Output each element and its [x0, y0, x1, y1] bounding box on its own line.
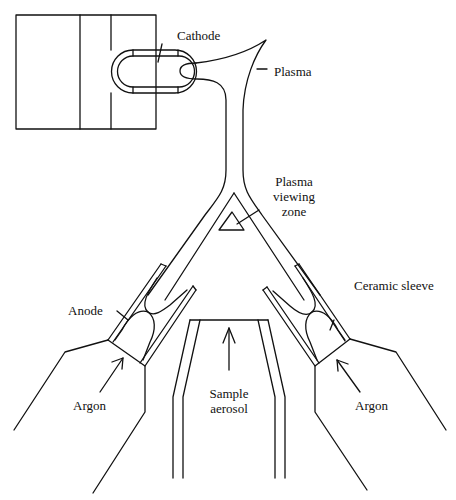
left-anode-assembly: [14, 264, 196, 493]
plasma-viewing-zone-label: Plasma viewing zone: [261, 174, 327, 219]
sample-label-line2: aerosol: [204, 401, 254, 416]
anode-label: Anode: [68, 303, 103, 318]
viewing-zone-label-line2: viewing: [261, 189, 327, 204]
cathode-block: [16, 15, 156, 129]
sample-label-line1: Sample: [204, 386, 254, 401]
ceramic-sleeve-label: Ceramic sleeve: [354, 278, 434, 293]
plasma-label: Plasma: [274, 64, 312, 79]
argon-left-label: Argon: [73, 398, 106, 413]
plasma-source-diagram: Cathode Plasma Plasma viewing zone Anode…: [0, 0, 456, 500]
sample-aerosol-label: Sample aerosol: [204, 386, 254, 416]
cathode: [112, 44, 197, 93]
right-anode-assembly: [263, 264, 446, 490]
diagram-canvas: [0, 0, 456, 500]
cathode-label: Cathode: [177, 28, 220, 43]
viewing-zone-label-line1: Plasma: [261, 174, 327, 189]
viewing-zone-label-line3: zone: [261, 204, 327, 219]
argon-right-label: Argon: [355, 398, 388, 413]
